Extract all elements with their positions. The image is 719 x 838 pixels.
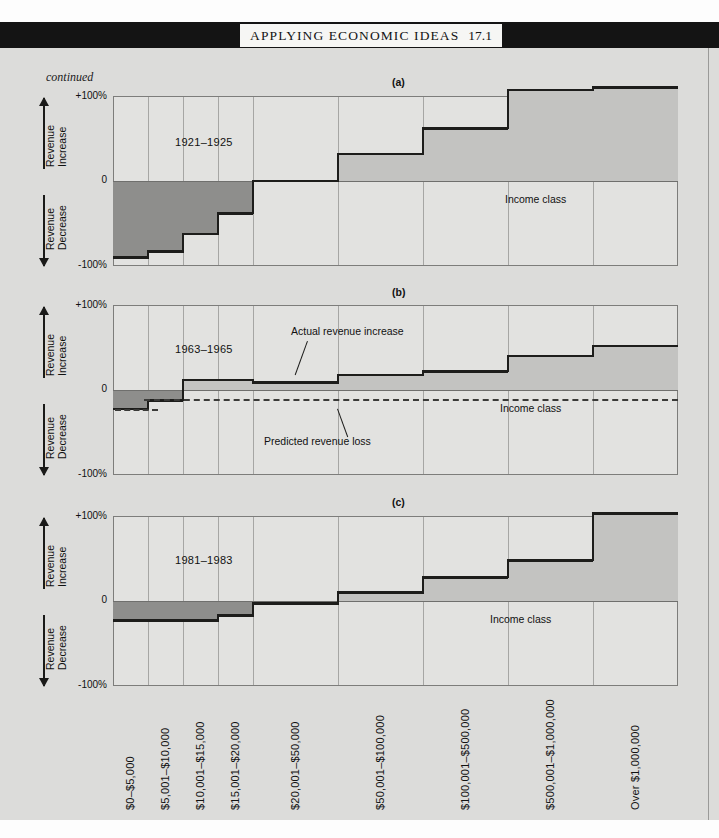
bar-segment xyxy=(183,380,218,390)
y-tick-zero: 0 xyxy=(51,383,107,394)
step-cap xyxy=(338,374,423,377)
step-riser xyxy=(507,559,510,578)
step-riser xyxy=(217,212,220,235)
x-axis-label-1: $0–$5,000 xyxy=(124,756,136,810)
annotation-actual-revenue-increase: Actual revenue increase xyxy=(291,325,404,337)
step-riser xyxy=(182,233,185,253)
step-cap xyxy=(253,381,338,384)
step-cap xyxy=(338,591,423,594)
y-axis-decrease-label-1: Revenue xyxy=(44,417,56,459)
y-axis-decrease-label-2: Decrease xyxy=(56,414,68,459)
x-axis-label-6: $50,001–$100,000 xyxy=(374,715,386,810)
bar-segment xyxy=(338,375,423,390)
step-riser xyxy=(252,180,255,215)
bar-segment xyxy=(148,181,183,252)
step-cap xyxy=(593,512,678,515)
panel-letter-1: (a) xyxy=(392,76,405,88)
bar-segment xyxy=(148,601,183,621)
x-axis-label-3: $10,001–$15,000 xyxy=(194,721,206,810)
x-axis-label-2: $5,001–$10,000 xyxy=(159,728,171,810)
y-tick-zero: 0 xyxy=(51,594,107,605)
bar-segment xyxy=(593,513,678,601)
bar-segment xyxy=(113,181,148,258)
step-riser xyxy=(592,512,595,561)
bar-segment xyxy=(423,371,508,390)
x-axis-label-7: $100,001–$500,000 xyxy=(459,709,471,810)
x-axis-category-labels: $0–$5,000$5,001–$10,000$10,001–$15,000$1… xyxy=(0,686,719,820)
step-cap xyxy=(183,619,218,622)
predicted-revenue-loss-line xyxy=(144,399,678,401)
y-axis-decrease-label-2: Decrease xyxy=(56,205,68,250)
y-axis-decrease-label-1: Revenue xyxy=(44,208,56,250)
y-axis-increase-label-2: Increase xyxy=(56,127,68,167)
step-cap xyxy=(148,619,183,622)
income-class-label-3: Income class xyxy=(490,613,551,625)
step-riser xyxy=(337,153,340,183)
predicted-revenue-loss-stub xyxy=(115,409,158,411)
step-cap xyxy=(148,250,183,253)
step-riser xyxy=(252,602,255,616)
period-label-2: 1963–1965 xyxy=(175,343,233,355)
annotation-predicted-revenue-loss: Predicted revenue loss xyxy=(264,435,371,447)
step-riser xyxy=(147,250,150,258)
period-label-1: 1921–1925 xyxy=(175,136,233,148)
page-margin-top xyxy=(0,0,719,22)
panel-letter-3: (c) xyxy=(392,496,405,508)
x-axis-label-8: $500,001–$1,000,000 xyxy=(544,699,556,810)
step-cap xyxy=(218,614,253,617)
step-riser xyxy=(337,591,340,604)
bar-segment xyxy=(423,128,508,181)
step-riser xyxy=(217,614,220,622)
y-tick-top: +100% xyxy=(51,299,107,310)
step-cap xyxy=(593,86,678,89)
bar-segment xyxy=(508,356,593,390)
bar-segment xyxy=(183,181,218,234)
income-class-label-2: Income class xyxy=(500,402,561,414)
panel-letter-2: (b) xyxy=(392,286,405,298)
y-axis-increase-label-2: Increase xyxy=(56,547,68,587)
bar-segment xyxy=(338,154,423,181)
x-axis-label-9: Over $1,000,000 xyxy=(629,725,641,810)
continued-note: continued xyxy=(46,70,93,85)
step-cap xyxy=(423,127,508,130)
y-tick-top: +100% xyxy=(51,90,107,101)
step-riser xyxy=(422,370,425,376)
zero-baseline xyxy=(113,181,678,182)
y-axis-decrease-label-1: Revenue xyxy=(44,628,56,670)
step-cap xyxy=(183,379,218,382)
y-axis-increase-label-1: Revenue xyxy=(44,125,56,167)
bar-segment xyxy=(593,88,678,182)
step-cap xyxy=(508,559,593,562)
y-axis-increase-label-1: Revenue xyxy=(44,545,56,587)
banner-number: 17.1 xyxy=(468,28,492,44)
income-class-label-1: Income class xyxy=(505,193,566,205)
step-cap xyxy=(183,233,218,236)
bar-segment xyxy=(113,601,148,621)
bar-segment xyxy=(183,601,218,621)
y-axis-increase-label-2: Increase xyxy=(56,336,68,376)
step-cap xyxy=(423,576,508,579)
step-cap xyxy=(593,345,678,348)
bar-segment xyxy=(423,577,508,601)
x-axis-label-4: $15,001–$20,000 xyxy=(229,721,241,810)
step-cap xyxy=(253,180,338,183)
step-cap xyxy=(508,355,593,358)
y-tick-top: +100% xyxy=(51,510,107,521)
y-axis-decrease-label-2: Decrease xyxy=(56,625,68,670)
bar-segment xyxy=(508,90,593,181)
zero-baseline xyxy=(113,390,678,391)
y-tick-bottom: -100% xyxy=(51,259,107,270)
bar-segment xyxy=(218,181,253,213)
step-riser xyxy=(592,345,595,358)
step-cap xyxy=(508,89,593,92)
step-riser xyxy=(252,379,255,384)
header-banner-label: APPLYING ECONOMIC IDEAS 17.1 xyxy=(240,24,502,47)
x-axis-label-5: $20,001–$50,000 xyxy=(289,721,301,810)
bar-segment xyxy=(218,380,253,390)
step-riser xyxy=(422,576,425,594)
y-tick-bottom: -100% xyxy=(51,468,107,479)
step-riser xyxy=(337,374,340,384)
step-cap xyxy=(423,370,508,373)
step-cap xyxy=(113,619,148,622)
banner-title: APPLYING ECONOMIC IDEAS xyxy=(250,28,459,44)
